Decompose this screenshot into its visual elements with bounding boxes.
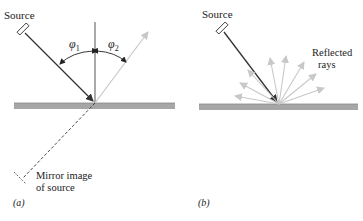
source-emitter-a — [17, 23, 29, 35]
panel-a-specular: Source φ1 φ2 Mirror image of source (a) — [4, 9, 175, 209]
mirror-image-label-line2: of source — [36, 182, 75, 193]
reflection-diagram: Source φ1 φ2 Mirror image of source (a) … — [0, 0, 363, 221]
source-emitter-b — [216, 22, 228, 34]
panel-a-label: (a) — [13, 197, 25, 209]
mirror-image-dashed-path — [23, 103, 95, 178]
phi1-label: φ1 — [69, 37, 80, 53]
panel-b-diffuse: Source Reflected rays (b) — [198, 8, 358, 209]
incident-ray-b — [224, 32, 277, 102]
mirror-surface-b — [199, 104, 358, 110]
source-label-a: Source — [4, 9, 35, 21]
source-label-b: Source — [202, 8, 233, 20]
mirror-image-label-line1: Mirror image — [36, 170, 93, 181]
phi2-arc — [97, 51, 126, 62]
reflected-rays-label-line2: rays — [318, 59, 336, 70]
reflected-ray-a — [95, 32, 148, 103]
phi2-label: φ2 — [108, 37, 119, 53]
reflected-rays-label-line1: Reflected — [312, 47, 353, 58]
incident-ray-a — [25, 33, 93, 101]
panel-b-label: (b) — [198, 197, 210, 209]
mirror-image-source — [14, 172, 26, 184]
